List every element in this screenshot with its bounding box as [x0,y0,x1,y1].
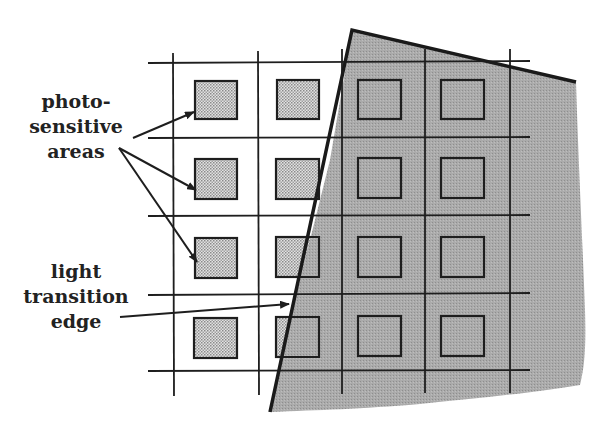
cell-r2-c2 [276,159,319,199]
grid-h2 [148,137,530,138]
label-line: areas [22,139,130,164]
grid-h3 [148,215,530,216]
arrow-to-cell-r2 [119,148,196,190]
label-line: edge [22,309,130,334]
annotation-arrows [119,112,289,317]
arrow-to-edge [120,304,289,317]
label-line: photo- [22,89,130,114]
photosensitive-areas-label: photo- sensitive areas [22,89,130,164]
cell-r2-c1 [195,159,237,199]
label-line: light [22,259,130,284]
cell-r4-c1 [194,318,237,358]
cell-r3-c1 [195,238,237,278]
label-line: sensitive [22,114,130,139]
light-transition-edge-label: light transition edge [22,259,130,334]
grid-v2 [258,51,259,395]
photosensitive-grid-diagram [0,0,616,439]
cell-r1-c1 [195,81,237,119]
grid-v1 [173,53,174,396]
arrow-to-cell-r3 [119,148,197,262]
grid-h5 [148,370,530,371]
cell-r1-c2 [277,80,319,119]
arrow-to-cell-r1 [133,112,194,138]
label-line: transition [22,284,130,309]
